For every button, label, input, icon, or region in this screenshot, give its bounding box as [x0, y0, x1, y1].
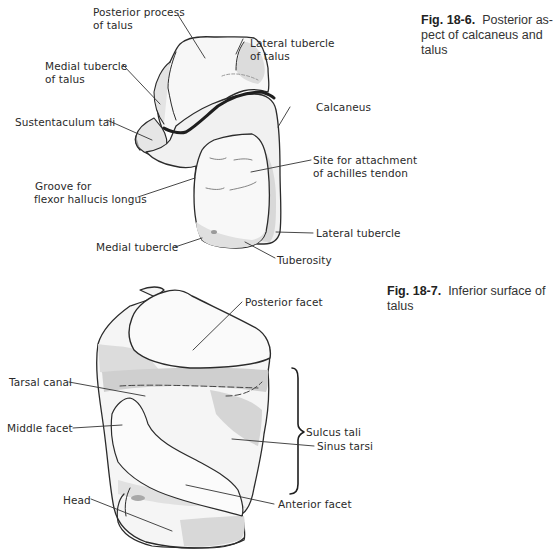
label-posterior-process-of-talus: Posterior processof talus [93, 6, 185, 31]
label-line: of talus [93, 19, 133, 31]
caption-number: Fig. 18-7. [387, 284, 441, 298]
sulcus-tali-bracket [290, 368, 304, 494]
label-line: of talus [45, 73, 85, 85]
label-line: of achilles tendon [313, 167, 408, 179]
caption-text-line: talus [421, 43, 447, 57]
label-groove-for-flexor-hallucis-longus: Groove forflexor hallucis longus [34, 180, 147, 205]
label-line: Posterior process [93, 6, 185, 18]
label-line: Site for attachment [313, 154, 417, 166]
label-lateral-tubercle: Lateral tubercle [316, 227, 401, 240]
caption-fig-18-6: Fig. 18-6. Posterior as- pect of calcane… [421, 13, 553, 58]
label-sustentaculum-tali: Sustentaculum tali [15, 116, 115, 129]
caption-text-line: Inferior surface of [448, 284, 545, 298]
label-line: Lateral tubercle [250, 37, 335, 49]
caption-text-line: Posterior as- [482, 13, 553, 27]
label-lateral-tubercle-of-talus: Lateral tubercleof talus [250, 37, 335, 62]
caption-number: Fig. 18-6. [421, 13, 475, 27]
label-sinus-tarsi: Sinus tarsi [317, 440, 373, 453]
label-posterior-facet: Posterior facet [245, 296, 323, 309]
label-tarsal-canal: Tarsal canal [9, 376, 72, 389]
label-anterior-facet: Anterior facet [278, 498, 352, 511]
caption-fig-18-7: Fig. 18-7. Inferior surface of talus [387, 284, 545, 314]
label-line: Medial tubercle [45, 60, 127, 72]
label-tuberosity: Tuberosity [277, 254, 332, 267]
label-line: Groove for [34, 180, 92, 192]
label-site-for-attachment-of-achilles-tendon: Site for attachmentof achilles tendon [313, 154, 417, 179]
label-line: of talus [250, 50, 290, 62]
anatomy-plate: Posterior processof talus Lateral tuberc… [0, 0, 553, 559]
label-line: flexor hallucis longus [34, 193, 147, 205]
label-medial-tubercle-of-talus: Medial tubercleof talus [45, 60, 127, 85]
caption-text-line: talus [387, 299, 413, 313]
label-head: Head [63, 494, 91, 507]
label-calcaneus: Calcaneus [316, 101, 371, 114]
label-sulcus-tali: Sulcus tali [306, 426, 361, 439]
caption-text-line: pect of calcaneus and [421, 28, 543, 42]
label-middle-facet: Middle facet [7, 422, 73, 435]
label-medial-tubercle: Medial tubercle [96, 241, 178, 254]
